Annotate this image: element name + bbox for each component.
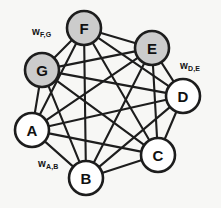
node-label-f: F xyxy=(79,20,88,37)
graph-figure: ABCDEFG wF,GwD,EwA,B xyxy=(0,0,221,208)
weight-subscript: F,G xyxy=(40,31,51,38)
node-label-g: G xyxy=(36,62,48,79)
graph-node-e[interactable]: E xyxy=(135,31,169,65)
edge-weight-label-de: wD,E xyxy=(180,60,200,71)
graph-node-c[interactable]: C xyxy=(141,138,175,172)
graph-node-b[interactable]: B xyxy=(69,161,103,195)
weight-subscript: D,E xyxy=(188,65,200,72)
graph-edge-a-d xyxy=(48,100,168,127)
node-label-d: D xyxy=(178,88,189,105)
graph-node-d[interactable]: D xyxy=(166,79,200,113)
edge-weight-label-fg: wF,G xyxy=(32,26,51,37)
weight-symbol: w xyxy=(38,158,46,169)
node-label-b: B xyxy=(81,170,92,187)
graph-edge-a-g xyxy=(35,86,40,114)
graph-edge-b-g xyxy=(48,85,80,163)
graph-node-a[interactable]: A xyxy=(15,113,49,147)
node-label-c: C xyxy=(153,147,164,164)
weight-subscript: A,B xyxy=(46,163,58,170)
graph-node-g[interactable]: G xyxy=(25,53,59,87)
graph-edge-e-g xyxy=(58,51,137,67)
graph-edge-d-e xyxy=(161,61,175,82)
graph-node-f[interactable]: F xyxy=(67,11,101,45)
weight-symbol: w xyxy=(180,60,188,71)
edge-weight-label-ab: wA,B xyxy=(38,158,58,169)
graph-edge-b-c xyxy=(101,160,143,173)
node-label-e: E xyxy=(147,40,157,57)
node-label-a: A xyxy=(27,122,38,139)
weight-symbol: w xyxy=(32,26,40,37)
graph-edge-c-d xyxy=(164,111,177,141)
